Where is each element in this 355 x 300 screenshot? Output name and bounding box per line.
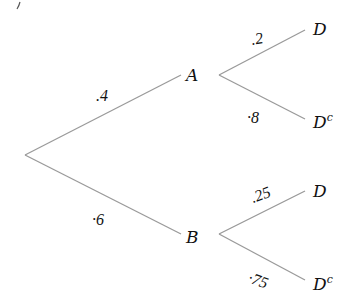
complement-superscript: c (327, 111, 333, 124)
node-label-b: B (185, 227, 199, 247)
prob-label-b-dc: ·75 (246, 269, 271, 292)
complement-superscript: c (327, 273, 333, 286)
prob-label-a: .4 (96, 87, 108, 104)
prob-label-a-d: .2 (250, 29, 265, 48)
prob-label-b-d: .25 (248, 183, 273, 206)
edge-a-to-dc (219, 75, 305, 119)
outcome-label-a-d: D (312, 19, 327, 39)
outcome-label-a-dc: Dc (312, 111, 333, 132)
cropped-mark (17, 2, 20, 9)
probability-tree-diagram: A B D Dc D Dc .4 ·6 .2 ·8 .25 ·75 (0, 0, 355, 300)
prob-label-a-dc: ·8 (247, 109, 259, 126)
outcome-label-b-dc: Dc (312, 273, 333, 294)
node-label-a: A (184, 65, 198, 85)
outcome-label-b-d: D (312, 181, 327, 201)
prob-label-b: ·6 (92, 211, 104, 228)
